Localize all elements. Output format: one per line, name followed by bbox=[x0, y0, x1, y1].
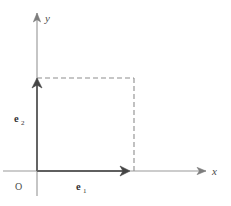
svg-text:e: e bbox=[14, 113, 19, 124]
svg-text:1: 1 bbox=[83, 187, 87, 195]
y-axis-label: y bbox=[44, 12, 50, 24]
figure-canvas: y x O e 1 e 2 bbox=[0, 0, 231, 206]
vector-basis-figure: y x O e 1 e 2 bbox=[0, 0, 231, 206]
vector-e2-label: e 2 bbox=[14, 113, 25, 127]
x-axis-label: x bbox=[211, 165, 217, 177]
svg-text:2: 2 bbox=[21, 119, 25, 127]
svg-text:e: e bbox=[76, 181, 81, 192]
origin-label: O bbox=[15, 181, 22, 192]
vector-e1-label: e 1 bbox=[76, 181, 87, 195]
